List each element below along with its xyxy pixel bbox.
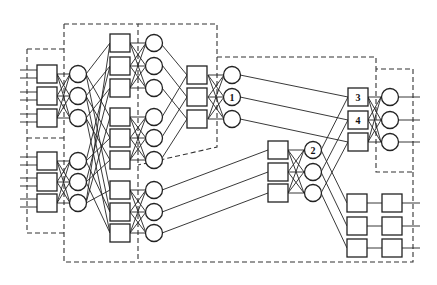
wire [240, 75, 348, 97]
stage2-switch [110, 129, 130, 147]
stage2-switch [110, 57, 130, 75]
input-switch [37, 87, 57, 105]
input-circle [70, 174, 87, 191]
output-lower-switch [382, 217, 402, 235]
wire [321, 120, 348, 172]
input-circle [70, 88, 87, 105]
circle-label-2: 2 [311, 145, 316, 156]
wire [240, 97, 348, 120]
stage2-circle [146, 225, 163, 242]
wire [162, 119, 187, 158]
input-switch [37, 109, 57, 127]
stage2-circle [146, 58, 163, 75]
stage2-circle [146, 204, 163, 221]
stage3-switch [187, 110, 207, 128]
input-circle [70, 153, 87, 170]
stage3-middle-circle [305, 185, 322, 202]
wire [240, 119, 348, 142]
stage3-switch [187, 88, 207, 106]
stage2-circle [146, 182, 163, 199]
stage3-middle-switch [268, 141, 288, 159]
output-circle [382, 89, 399, 106]
output-switch [348, 133, 368, 151]
circle-label-1: 1 [230, 92, 235, 103]
square-label-3: 3 [356, 92, 361, 103]
stage3-circle [224, 67, 241, 84]
output-lower-switch [347, 194, 367, 212]
wire [321, 150, 347, 203]
input-switch [37, 173, 57, 191]
input-circle [70, 66, 87, 83]
wire [162, 193, 268, 233]
output-lower-switch [347, 217, 367, 235]
input-switch [37, 152, 57, 170]
output-circle [382, 134, 399, 151]
stage2-switch [110, 151, 130, 169]
stage2-circle [146, 80, 163, 97]
input-circle [70, 195, 87, 212]
stage2-circle [146, 130, 163, 147]
stage2-switch [110, 79, 130, 97]
wire [86, 43, 110, 203]
wire [162, 172, 268, 212]
input-switch [37, 65, 57, 83]
wire [321, 172, 347, 226]
square-label-4: 4 [356, 115, 361, 126]
stage2-switch [110, 108, 130, 126]
stage3-switch [187, 66, 207, 84]
stage3-middle-switch [268, 184, 288, 202]
node-labels: 1 2 3 4 [230, 92, 361, 156]
stage2-circle [146, 35, 163, 52]
wire [321, 97, 348, 150]
wire [321, 142, 348, 193]
wire [321, 193, 347, 248]
output-lower-switch [382, 194, 402, 212]
switching-network-diagram: 1 2 3 4 [0, 0, 437, 285]
output-lower-switch [382, 239, 402, 257]
stage2-circle [146, 152, 163, 169]
wire [86, 138, 110, 161]
stage3-middle-switch [268, 163, 288, 181]
stage3-circle [224, 111, 241, 128]
stage2-switch [110, 34, 130, 52]
stage2-switch [110, 203, 130, 221]
stage3-middle-circle [305, 164, 322, 181]
input-switch [37, 194, 57, 212]
stage2-circle [146, 109, 163, 126]
output-circle [382, 112, 399, 129]
stage2-switch [110, 181, 130, 199]
stage2-switch [110, 224, 130, 242]
output-lower-switch [347, 239, 367, 257]
input-circle [70, 110, 87, 127]
